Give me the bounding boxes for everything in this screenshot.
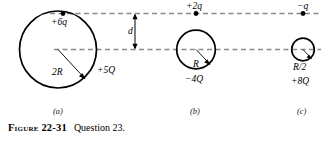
separation-distance-label: d	[128, 27, 133, 37]
panel-c-shell	[292, 11, 315, 61]
panel-tag-b: (b)	[190, 107, 200, 116]
panel-a-shell-charge-label: +5Q	[97, 66, 115, 76]
panel-tag-c: (c)	[297, 107, 306, 116]
panel-a-point-charge-label: +6q	[51, 18, 67, 28]
panel-c-point-charge-label: −q	[297, 2, 308, 12]
separation-dimension-arrow	[132, 14, 137, 50]
panel-b-point-charge-label: +2q	[186, 2, 202, 12]
panel-tag-a: (a)	[53, 107, 63, 116]
panel-c-shell-charge-label: +8Q	[291, 77, 309, 87]
panel-c-radius-label: R/2	[293, 63, 306, 73]
panel-b-radius-label: R	[193, 60, 199, 70]
panel-b-shell-charge-label: −4Q	[185, 75, 203, 85]
figure-caption-text: Question 23.	[74, 122, 125, 133]
panel-a-radius-label: 2R	[52, 68, 63, 78]
panel-c-point-charge-dot	[301, 11, 306, 16]
figure-caption: Figure 22-31Question 23.	[8, 123, 323, 134]
figure-drawing-canvas	[0, 0, 331, 141]
figure-22-31: +6q 2R +5Q +2q R −4Q −q R/2 +8Q d (a) (b…	[0, 0, 331, 141]
figure-caption-number: Figure 22-31	[8, 122, 67, 133]
panel-b-point-charge-dot	[194, 11, 199, 16]
panel-a-point-charge-dot	[61, 11, 66, 16]
